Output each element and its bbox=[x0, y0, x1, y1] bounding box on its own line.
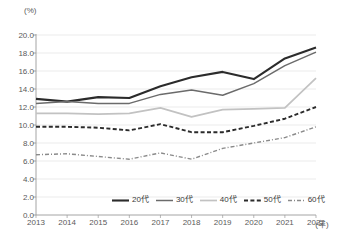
y-axis-tick-label: 18.0 bbox=[8, 49, 34, 58]
legend-item[interactable]: 20代 bbox=[112, 196, 149, 204]
legend-item[interactable]: 50代 bbox=[244, 196, 281, 204]
legend-swatch-icon bbox=[156, 197, 173, 204]
series-line-3 bbox=[36, 107, 316, 132]
line-chart: (%) 20.018.016.014.012.010.08.06.04.02.0… bbox=[0, 0, 337, 240]
x-axis-tick-label: 2018 bbox=[183, 218, 201, 227]
y-axis-tick-label: 2.0 bbox=[8, 193, 34, 202]
x-axis-tick-label: 2017 bbox=[152, 218, 170, 227]
legend-item[interactable]: 60代 bbox=[288, 196, 325, 204]
legend-swatch-icon bbox=[288, 197, 305, 204]
y-axis-tick-label: 20.0 bbox=[8, 31, 34, 40]
x-axis-tick-label: 2022 bbox=[307, 218, 325, 227]
y-axis-tick-label: 8.0 bbox=[8, 139, 34, 148]
legend-item[interactable]: 40代 bbox=[200, 196, 237, 204]
x-axis-tick-label: 2016 bbox=[120, 218, 138, 227]
y-axis-tick-label: 16.0 bbox=[8, 67, 34, 76]
legend-item-label: 30代 bbox=[176, 196, 193, 204]
x-axis-tick-label: 2021 bbox=[276, 218, 294, 227]
y-axis-tick-label: 4.0 bbox=[8, 175, 34, 184]
y-axis-tick-label: 12.0 bbox=[8, 103, 34, 112]
series-line-0 bbox=[36, 48, 316, 102]
legend-item-label: 50代 bbox=[264, 196, 281, 204]
legend-item-label: 20代 bbox=[132, 196, 149, 204]
legend-item-label: 60代 bbox=[308, 196, 325, 204]
x-axis-tick-label: 2020 bbox=[245, 218, 263, 227]
plot-area bbox=[0, 0, 337, 240]
y-axis-tick-label: 10.0 bbox=[8, 121, 34, 130]
x-axis-tick-label: 2013 bbox=[27, 218, 45, 227]
series-line-2 bbox=[36, 78, 316, 117]
y-axis-tick-label: 14.0 bbox=[8, 85, 34, 94]
y-axis-tick-label: 6.0 bbox=[8, 157, 34, 166]
x-axis-tick-label: 2015 bbox=[89, 218, 107, 227]
x-axis-tick-label: 2014 bbox=[58, 218, 76, 227]
y-axis-ticks: 20.018.016.014.012.010.08.06.04.02.00.0 bbox=[0, 0, 34, 240]
legend-swatch-icon bbox=[200, 197, 217, 204]
legend-item-label: 40代 bbox=[220, 196, 237, 204]
chart-legend: 20代30代40代50代60代 bbox=[112, 196, 325, 204]
x-axis-tick-label: 2019 bbox=[214, 218, 232, 227]
legend-swatch-icon bbox=[112, 197, 129, 204]
legend-item[interactable]: 30代 bbox=[156, 196, 193, 204]
series-line-1 bbox=[36, 52, 316, 103]
legend-swatch-icon bbox=[244, 197, 261, 204]
